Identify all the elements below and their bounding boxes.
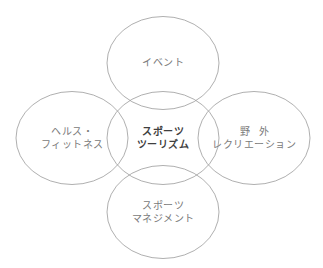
label-sport-management-line-1: スポーツ [108, 199, 218, 212]
label-outdoor-recreation: 野外 レクリエーション [199, 125, 309, 151]
label-event-line-1: イベント [108, 56, 218, 69]
label-outdoor-recreation-line-1: 野外 [199, 125, 309, 138]
label-outdoor-recreation-line-2: レクリエーション [199, 138, 309, 151]
label-event: イベント [108, 56, 218, 69]
label-sport-management-line-2: マネジメント [108, 212, 218, 225]
label-sport-management: スポーツ マネジメント [108, 199, 218, 225]
